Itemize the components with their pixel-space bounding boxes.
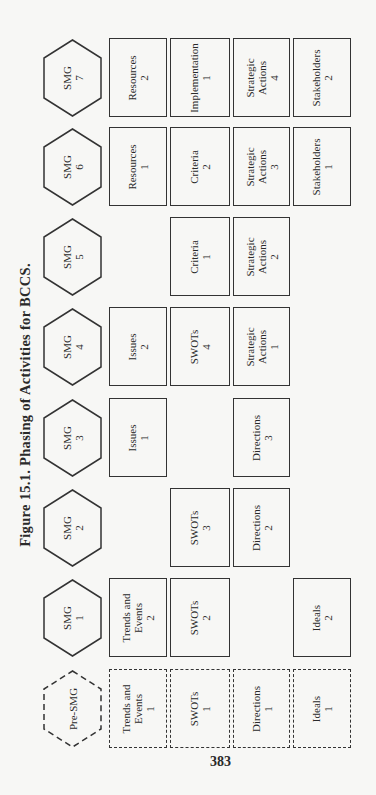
phase-hexagon-smg-6: SMG6 bbox=[43, 128, 102, 206]
phase-label: SMG1 bbox=[61, 606, 85, 630]
phase-hexagon-smg-3: SMG3 bbox=[43, 399, 102, 477]
phase-hexagon-pre-smg: Pre-SMG bbox=[43, 670, 102, 748]
phase-hexagon-smg-1: SMG1 bbox=[43, 579, 102, 657]
activity-box-directions-2: Directions2 bbox=[233, 488, 290, 567]
activity-box-stakeholders-2: Stakeholders2 bbox=[293, 38, 351, 117]
activity-box-criteria-1: Criteria1 bbox=[170, 217, 230, 296]
activity-box-resources-2: Resources2 bbox=[109, 38, 167, 117]
activity-box-trends-and-events-1: Trends andEvents1 bbox=[109, 669, 167, 748]
phase-label: SMG5 bbox=[61, 245, 85, 269]
activity-box-swots-4: SWOTs4 bbox=[170, 307, 230, 386]
activity-box-ideals-1: Ideals1 bbox=[293, 669, 351, 748]
phase-label: SMG7 bbox=[61, 66, 85, 90]
activity-box-swots-1: SWOTs1 bbox=[170, 669, 230, 748]
phase-label: SMG2 bbox=[61, 516, 85, 540]
activity-box-trends-and-events-2: Trends andEvents2 bbox=[109, 578, 167, 657]
activity-box-resources-1: Resources1 bbox=[109, 127, 167, 206]
phase-hexagon-smg-2: SMG2 bbox=[43, 489, 102, 567]
figure-title: Figure 15.1. Phasing of Activities for B… bbox=[17, 263, 34, 547]
activity-box-swots-3: SWOTs3 bbox=[170, 488, 230, 567]
activity-box-issues-1: Issues1 bbox=[109, 398, 167, 477]
activity-box-directions-1: Directions1 bbox=[233, 669, 290, 748]
activity-box-stakeholders-1: Stakeholders1 bbox=[293, 127, 351, 206]
phase-label: SMG6 bbox=[61, 155, 85, 179]
activity-box-criteria-2: Criteria2 bbox=[170, 127, 230, 206]
activity-box-strategic-actions-4: StrategicActions4 bbox=[233, 38, 290, 117]
phase-hexagon-smg-7: SMG7 bbox=[43, 39, 102, 117]
activity-box-strategic-actions-3: StrategicActions3 bbox=[233, 127, 290, 206]
page-number: 383 bbox=[210, 754, 231, 770]
activity-box-directions-3: Directions3 bbox=[233, 398, 290, 477]
activity-box-issues-2: Issues2 bbox=[109, 307, 167, 386]
phase-label: Pre-SMG bbox=[67, 688, 79, 730]
activity-box-strategic-actions-2: StrategicActions2 bbox=[233, 217, 290, 296]
phase-hexagon-smg-4: SMG4 bbox=[43, 308, 102, 386]
phase-hexagon-smg-5: SMG5 bbox=[43, 218, 102, 296]
activity-box-implementation-1: Implementation1 bbox=[170, 38, 230, 117]
activity-box-swots-2: SWOTs2 bbox=[170, 578, 230, 657]
activity-box-strategic-actions-1: StrategicActions1 bbox=[233, 307, 290, 386]
phase-label: SMG4 bbox=[61, 335, 85, 359]
phase-label: SMG3 bbox=[61, 426, 85, 450]
activity-box-ideals-2: Ideals2 bbox=[293, 578, 351, 657]
